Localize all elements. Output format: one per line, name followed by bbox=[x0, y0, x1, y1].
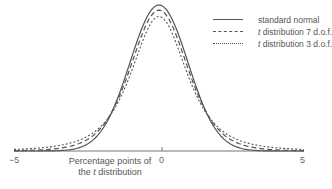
dashed-line-swatch-icon bbox=[213, 31, 243, 32]
dotted-line-swatch-icon bbox=[213, 43, 243, 44]
legend-label-text: distribution 3 d.o.f. bbox=[260, 39, 332, 49]
x-axis-label-line2: the t distribution bbox=[60, 167, 160, 178]
legend-label-text: distribution 7 d.o.f. bbox=[260, 27, 332, 37]
x-axis-label-line1: Percentage points of bbox=[60, 156, 160, 167]
legend-label: t distribution 3 d.o.f. bbox=[258, 39, 332, 49]
x-axis-label-suffix: distribution bbox=[96, 167, 142, 177]
legend-item-standard-normal: standard normal bbox=[213, 14, 332, 25]
legend-label: t distribution 7 d.o.f. bbox=[258, 27, 332, 37]
x-tick-label-neg5: −5 bbox=[9, 155, 19, 165]
solid-line-swatch-icon bbox=[213, 19, 243, 20]
legend-item-t7: t distribution 7 d.o.f. bbox=[213, 26, 332, 37]
legend-item-t3: t distribution 3 d.o.f. bbox=[213, 38, 332, 49]
x-tick-label-5: 5 bbox=[300, 155, 305, 165]
legend-label-text: standard normal bbox=[258, 15, 319, 25]
legend-label: standard normal bbox=[258, 15, 319, 25]
legend: standard normal t distribution 7 d.o.f. … bbox=[213, 14, 332, 50]
x-axis-label-prefix: the bbox=[78, 167, 93, 177]
x-axis-label: Percentage points of the t distribution bbox=[60, 156, 160, 178]
